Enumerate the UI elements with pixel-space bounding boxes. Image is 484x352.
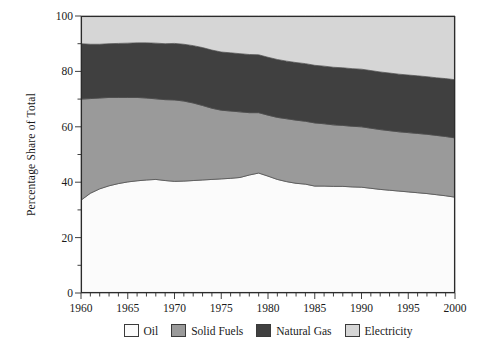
legend-entry[interactable]: Natural Gas <box>256 324 331 337</box>
x-axis-tick-label: 1995 <box>386 302 430 314</box>
chart-legend: OilSolid FuelsNatural GasElectricity <box>81 324 455 337</box>
x-axis-tick-label: 1970 <box>153 302 197 314</box>
x-axis-tick-label: 1985 <box>293 302 337 314</box>
legend-swatch-icon <box>171 324 186 337</box>
legend-swatch-icon <box>256 324 271 337</box>
stacked-area-chart: 0204060801001960196519701975198019851990… <box>0 0 484 352</box>
legend-entry[interactable]: Oil <box>124 324 159 337</box>
x-axis-tick-label: 1980 <box>246 302 290 314</box>
legend-label: Natural Gas <box>276 325 331 337</box>
legend-swatch-icon <box>345 324 360 337</box>
legend-label: Oil <box>144 325 159 337</box>
x-axis-tick-label: 1990 <box>340 302 384 314</box>
x-axis-tick-label: 2000 <box>433 302 477 314</box>
legend-entry[interactable]: Solid Fuels <box>171 324 243 337</box>
x-axis-tick-label: 1975 <box>199 302 243 314</box>
legend-label: Solid Fuels <box>191 325 243 337</box>
x-axis-tick-label: 1965 <box>106 302 150 314</box>
y-axis-title: Percentage Share of Total <box>22 16 40 293</box>
x-axis-tick-label: 1960 <box>59 302 103 314</box>
legend-swatch-icon <box>124 324 139 337</box>
legend-entry[interactable]: Electricity <box>345 324 413 337</box>
area-bands-group <box>81 16 455 293</box>
legend-label: Electricity <box>365 325 413 337</box>
